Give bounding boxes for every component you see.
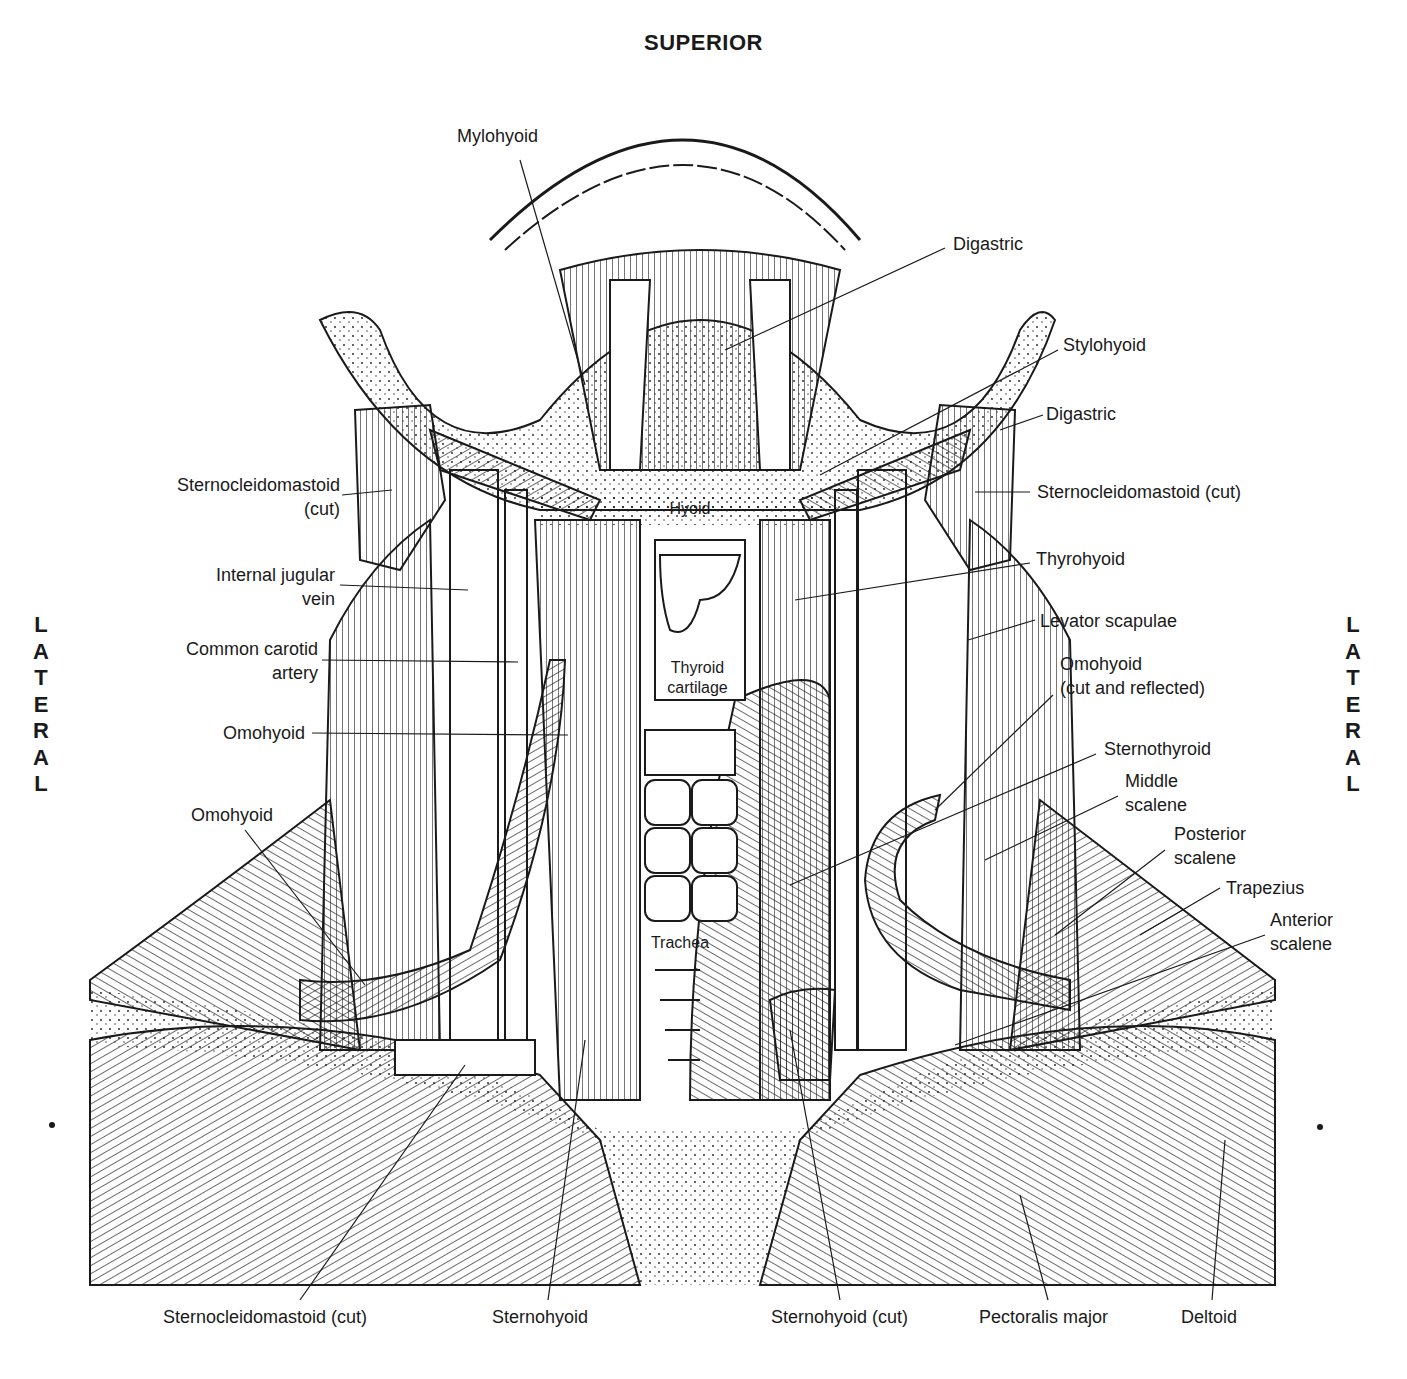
label-hyoid: Hyoid (655, 499, 725, 519)
label-digastric-top: Digastric (953, 232, 1023, 256)
label-omohyoid-reflected: Omohyoid(cut and reflected) (1060, 652, 1205, 700)
label-digastric-lower: Digastric (1046, 402, 1116, 426)
label-stylohyoid: Stylohyoid (1063, 333, 1146, 357)
label-sternocleidomastoid-left: Sternocleidomastoid(cut) (120, 473, 340, 521)
lateral-letter: T (1338, 665, 1368, 692)
label-sternohyoid-cut: Sternohyoid (cut) (771, 1305, 908, 1329)
lateral-letter: L (1338, 612, 1368, 639)
lateral-left-label: LATERAL (26, 612, 56, 798)
superior-label: SUPERIOR (0, 30, 1407, 56)
label-middle-scalene: Middlescalene (1125, 769, 1187, 817)
label-trapezius: Trapezius (1226, 876, 1304, 900)
lateral-letter: R (26, 718, 56, 745)
label-common-carotid-artery: Common carotidartery (120, 637, 318, 685)
lateral-letter: A (26, 639, 56, 666)
lateral-letter: T (26, 665, 56, 692)
label-thyrohyoid: Thyrohyoid (1036, 547, 1125, 571)
label-omohyoid-left: Omohyoid (160, 721, 305, 745)
label-posterior-scalene: Posteriorscalene (1174, 822, 1246, 870)
label-thyroid-cartilage: Thyroidcartilage (650, 658, 745, 698)
lateral-letter: A (26, 745, 56, 772)
lateral-letter: A (1338, 639, 1368, 666)
lateral-letter: L (26, 612, 56, 639)
label-internal-jugular-vein: Internal jugularvein (150, 563, 335, 611)
label-sternohyoid: Sternohyoid (492, 1305, 588, 1329)
lateral-letter: E (26, 692, 56, 719)
lateral-right-label: LATERAL (1338, 612, 1368, 798)
lateral-letter: A (1338, 745, 1368, 772)
label-mylohyoid: Mylohyoid (457, 124, 538, 148)
label-omohyoid-lower-left: Omohyoid (191, 803, 273, 827)
lateral-letter: L (1338, 771, 1368, 798)
label-sternocleidomastoid-bottom: Sternocleidomastoid (cut) (163, 1305, 367, 1329)
lateral-letter: R (1338, 718, 1368, 745)
label-sternothyroid: Sternothyroid (1104, 737, 1211, 761)
label-anterior-scalene: Anteriorscalene (1270, 908, 1333, 956)
lateral-letter: E (1338, 692, 1368, 719)
label-levator-scapulae: Levator scapulae (1040, 609, 1177, 633)
label-pectoralis-major: Pectoralis major (979, 1305, 1108, 1329)
label-trachea: Trachea (640, 933, 720, 953)
label-deltoid: Deltoid (1181, 1305, 1237, 1329)
lateral-letter: L (26, 771, 56, 798)
label-sternocleidomastoid-right: Sternocleidomastoid (cut) (1037, 480, 1241, 504)
